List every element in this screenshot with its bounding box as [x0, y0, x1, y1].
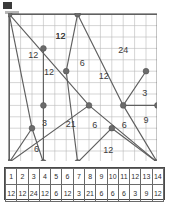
graph-vertex	[143, 68, 149, 74]
edge-weight-label: 24	[118, 45, 128, 55]
diagram-page: 12121262412123932166612 1234567891011121…	[0, 0, 169, 204]
table-header-cell-8: 8	[84, 169, 95, 185]
table-header-cell-11: 11	[118, 169, 129, 185]
table-header-cell-9: 9	[96, 169, 107, 185]
table-value-cell-5: 6	[51, 185, 62, 202]
table-value-cell-1: 12	[6, 185, 17, 202]
table-value-cell-7: 3	[73, 185, 84, 202]
graph-canvas: 12121262412123932166612	[8, 13, 157, 161]
graph-edge	[66, 14, 77, 71]
table-value-cell-8: 21	[84, 185, 95, 202]
table-header-cell-4: 4	[39, 169, 50, 185]
graph-vertex	[41, 160, 47, 162]
edge-weight-label: 21	[66, 119, 76, 129]
table-value-cell-4: 12	[39, 185, 50, 202]
table-header-cell-12: 12	[130, 169, 141, 185]
table-value-cell-12: 3	[130, 185, 141, 202]
table-header-cell-5: 5	[51, 169, 62, 185]
table-value-row: 121224126123216663912	[6, 185, 164, 202]
graph-vertex	[109, 125, 115, 131]
edge-labels: 12121262412123932166612	[28, 31, 148, 155]
table-value-cell-9: 6	[96, 185, 107, 202]
edge-weight-label: 12	[99, 71, 109, 81]
edge-weight-label: 6	[34, 144, 39, 154]
graph-vertex	[41, 103, 47, 109]
values-table: 1234567891011121314 12122412612321666391…	[4, 167, 165, 200]
graph-vertex	[75, 13, 81, 17]
edge-weight-label: 3	[42, 118, 47, 128]
table-header-cell-13: 13	[141, 169, 152, 185]
graph-vertex	[86, 103, 92, 109]
graph-vertex	[41, 46, 47, 52]
table-header-cell-1: 1	[6, 169, 17, 185]
edge-weight-label: 12	[55, 31, 65, 41]
corner-artifact-mark	[3, 2, 12, 9]
edge-weight-label: 3	[142, 88, 147, 98]
table-value-cell-10: 6	[107, 185, 118, 202]
edge-weight-label: 6	[122, 120, 127, 130]
edge-weight-label: 6	[92, 120, 97, 130]
graph-vertex	[155, 103, 158, 109]
table-value-cell-2: 12	[17, 185, 28, 202]
graph-vertex	[29, 125, 35, 131]
table-header-row: 1234567891011121314	[6, 169, 164, 185]
graph-edge	[123, 105, 157, 161]
table-value-cell-11: 6	[118, 185, 129, 202]
edge-weight-label: 12	[28, 50, 38, 60]
table-header-cell-6: 6	[62, 169, 73, 185]
table-header-cell-10: 10	[107, 169, 118, 185]
edge-weight-label: 12	[103, 145, 113, 155]
edge-weight-label: 6	[80, 58, 85, 68]
graph-edge	[9, 105, 89, 161]
table-value-cell-6: 12	[62, 185, 73, 202]
table-header-cell-3: 3	[28, 169, 39, 185]
table-value-cell-14: 12	[152, 185, 163, 202]
graph-edge	[66, 71, 77, 161]
table-header-cell-14: 14	[152, 169, 163, 185]
table-header-cell-7: 7	[73, 169, 84, 185]
graph-diagram: 12121262412123932166612	[8, 13, 157, 161]
table-value-cell-3: 24	[28, 185, 39, 202]
graph-vertex	[120, 103, 126, 109]
edge-weight-label: 12	[44, 67, 54, 77]
table-value-cell-13: 9	[141, 185, 152, 202]
table-header-cell-2: 2	[17, 169, 28, 185]
graph-vertex	[63, 68, 69, 74]
edge-weight-label: 9	[143, 115, 148, 125]
